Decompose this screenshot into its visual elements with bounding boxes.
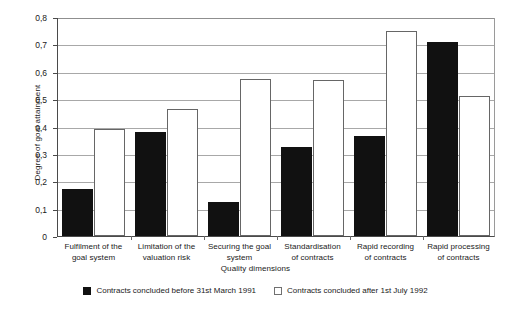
bar-after-1992	[167, 109, 198, 236]
x-axis-title: Quality dimensions	[0, 264, 511, 273]
x-tick-mark	[131, 236, 132, 240]
legend-label: Contracts concluded before 31st March 19…	[96, 286, 256, 295]
bar-after-1992	[240, 79, 271, 236]
bar-after-1992	[313, 80, 344, 236]
x-tick-mark	[204, 236, 205, 240]
bar-before-1991	[62, 189, 93, 236]
y-tick-label: 0,1	[7, 206, 47, 215]
bar-after-1992	[386, 31, 417, 236]
bar-group	[131, 18, 204, 236]
y-tick-mark	[53, 237, 57, 238]
chart-legend: Contracts concluded before 31st March 19…	[0, 286, 511, 295]
category-label: Standardisationof contracts	[273, 242, 352, 263]
legend-swatch-light	[274, 287, 282, 295]
bar-before-1991	[208, 202, 239, 236]
legend-swatch-dark	[83, 287, 91, 295]
x-tick-mark	[350, 236, 351, 240]
category-label-line2: system	[200, 253, 279, 264]
x-tick-mark	[423, 236, 424, 240]
category-label-line2: of contracts	[346, 253, 425, 264]
y-tick-label: 0,5	[7, 96, 47, 105]
bar-before-1991	[354, 136, 385, 236]
bar-after-1992	[94, 129, 125, 236]
category-label-line1: Fulfilment of the	[65, 242, 123, 251]
category-label: Rapid recordingof contracts	[346, 242, 425, 263]
y-tick-label: 0	[7, 233, 47, 242]
bar-group	[204, 18, 277, 236]
legend-label: Contracts concluded after 1st July 1992	[287, 286, 428, 295]
category-label-line2: of contracts	[273, 253, 352, 264]
category-label: Fulfilment of thegoal system	[54, 242, 133, 263]
plot-area	[57, 18, 495, 237]
category-label-line2: goal system	[54, 253, 133, 264]
y-tick-label: 0,8	[7, 14, 47, 23]
y-tick-label: 0,2	[7, 178, 47, 187]
bar-group	[277, 18, 350, 236]
legend-entry: Contracts concluded before 31st March 19…	[83, 286, 256, 295]
bar-after-1992	[459, 96, 490, 236]
bar-chart-figure: Degree of goal attainment 00,10,20,30,40…	[0, 0, 511, 311]
y-axis-title: Degree of goal attainment	[33, 33, 42, 233]
category-label-line2: valuation risk	[127, 253, 206, 264]
bar-before-1991	[135, 132, 166, 236]
category-label-line1: Standardisation	[284, 242, 340, 251]
bar-group	[58, 18, 131, 236]
y-tick-label: 0,4	[7, 124, 47, 133]
y-tick-label: 0,7	[7, 41, 47, 50]
category-label-line2: of contracts	[419, 253, 498, 264]
y-tick-label: 0,3	[7, 151, 47, 160]
category-label-line1: Limitation of the	[138, 242, 195, 251]
bar-group	[423, 18, 496, 236]
category-label: Securing the goalsystem	[200, 242, 279, 263]
x-tick-mark	[277, 236, 278, 240]
y-tick-label: 0,6	[7, 69, 47, 78]
bar-group	[350, 18, 423, 236]
bar-before-1991	[427, 42, 458, 236]
category-label: Limitation of thevaluation risk	[127, 242, 206, 263]
category-label-line1: Rapid recording	[357, 242, 414, 251]
category-label-line1: Securing the goal	[208, 242, 271, 251]
category-label: Rapid processingof contracts	[419, 242, 498, 263]
legend-entry: Contracts concluded after 1st July 1992	[274, 286, 428, 295]
category-label-line1: Rapid processing	[427, 242, 490, 251]
bar-before-1991	[281, 147, 312, 236]
